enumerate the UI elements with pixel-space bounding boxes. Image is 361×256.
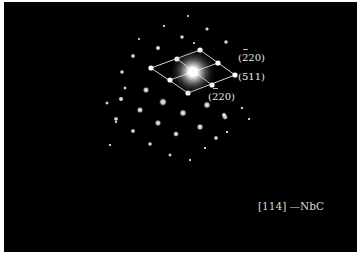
label-right: (511) [238,71,265,82]
diffraction-spot [108,143,112,147]
diffraction-spot [187,15,190,18]
diffraction-spot [203,146,207,150]
diffraction-spot [130,128,135,133]
diffraction-spot [155,45,161,51]
diffraction-spot [154,119,161,126]
diffraction-spot [213,135,218,140]
diffraction-spot [173,131,179,137]
diffraction-spot [123,86,127,90]
diffraction-spot [179,109,187,117]
diffraction-pattern: (220) (511) (220) [114] —NbC [4,2,357,252]
zone-axis-caption: [114] —NbC [258,200,324,212]
label-top: (220) [238,50,265,64]
svg-text:(511): (511) [238,71,265,82]
diffraction-spot [138,38,141,41]
cell-vertex-spot [148,65,153,70]
diffraction-spot [114,120,118,124]
diffraction-spot [240,106,244,110]
diffraction-spot [130,53,135,58]
diffraction-spot [205,27,210,32]
central-beam-core [188,67,198,77]
diffraction-spot [147,141,152,146]
cell-vertex-spot [232,72,237,77]
diffraction-image: (220) (511) (220) [114] —NbC [4,2,357,252]
diffraction-spot [168,153,172,157]
diffraction-spot [105,101,109,105]
diffraction-spot [193,42,196,45]
svg-text:(220): (220) [208,91,235,102]
diffraction-spot [159,98,168,107]
diffraction-spot [162,24,166,28]
label-bottom: (220) [208,89,235,103]
cell-vertex-spot [215,60,220,65]
diffraction-spot [142,86,149,93]
diffraction-spot [179,34,184,39]
diffraction-spot [118,96,124,102]
diffraction-spot [119,69,124,74]
diffraction-spot [247,117,251,121]
diffraction-spot [225,130,229,134]
diffraction-spot [223,39,228,44]
diffraction-spot [188,158,192,162]
diffraction-spot [136,106,143,113]
diffraction-spot [221,112,227,118]
diffraction-spot [196,123,204,131]
diffraction-spot [203,101,211,109]
svg-text:(220): (220) [238,52,265,63]
